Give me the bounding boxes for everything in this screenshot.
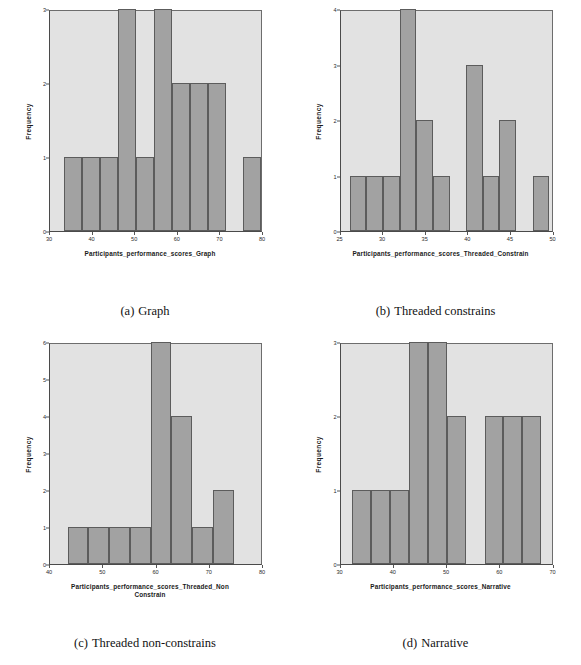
y-axis-ticks: 0123 — [324, 343, 340, 565]
panel-caption-label: (d) — [403, 636, 418, 650]
x-tick-label: 70 — [549, 569, 555, 575]
x-tick-mark — [262, 232, 263, 235]
histogram-bar — [383, 176, 400, 232]
x-tick-label: 80 — [259, 236, 265, 242]
x-axis-ticks: 4050607080 — [49, 565, 262, 579]
histogram-bar — [400, 9, 417, 231]
x-tick-mark — [446, 565, 447, 568]
figure-panel-grid: Frequency0123304050607080Participants_pe… — [0, 0, 581, 665]
y-axis-title-text: Frequency — [315, 103, 322, 139]
histogram-bar — [130, 527, 151, 564]
panel-caption: (c)Threaded non-constrains — [0, 636, 290, 651]
x-tick-mark — [102, 565, 103, 568]
histogram-panel-a: Frequency0123304050607080Participants_pe… — [0, 0, 290, 333]
panel-caption-text: Threaded constrains — [394, 304, 495, 318]
x-axis-title: Participants_performance_scores_Threaded… — [31, 583, 269, 599]
x-tick-label: 50 — [443, 569, 449, 575]
plot-area: Frequency01234564050607080Participants_p… — [19, 343, 271, 605]
axes-box — [49, 343, 262, 565]
x-tick-label: 40 — [464, 236, 470, 242]
x-axis-title-line1: Participants_performance_scores_Narrativ… — [322, 583, 560, 591]
panel-caption-label: (a) — [120, 304, 134, 318]
x-tick-label: 35 — [422, 236, 428, 242]
histogram-bar — [68, 527, 89, 564]
histogram-panel-d: Frequency01233040506070Participants_perf… — [290, 333, 581, 665]
x-tick-mark — [393, 565, 394, 568]
histogram-bar — [447, 416, 466, 564]
panel-caption: (a)Graph — [0, 304, 290, 319]
histogram-bar — [208, 83, 226, 231]
panel-caption: (b)Threaded constrains — [290, 304, 581, 319]
x-tick-mark — [134, 232, 135, 235]
x-axis-title-line2: Constrain — [31, 591, 269, 599]
x-tick-mark — [49, 232, 50, 235]
x-tick-mark — [219, 232, 220, 235]
histogram-bar — [533, 176, 550, 232]
x-axis-title: Participants_performance_scores_Narrativ… — [322, 583, 560, 591]
x-tick-mark — [340, 232, 341, 235]
x-tick-label: 50 — [549, 236, 555, 242]
histogram-bar — [522, 416, 541, 564]
x-tick-label: 25 — [336, 236, 342, 242]
x-tick-mark — [382, 232, 383, 235]
panel-caption-text: Threaded non-constrains — [92, 636, 216, 650]
x-tick-label: 50 — [99, 569, 105, 575]
x-tick-label: 40 — [88, 236, 94, 242]
bar-series — [50, 11, 261, 231]
axes-box — [49, 10, 262, 232]
x-tick-label: 70 — [216, 236, 222, 242]
histogram-bar — [118, 9, 136, 231]
histogram-bar — [213, 490, 234, 564]
panel-caption-text: Narrative — [421, 636, 468, 650]
histogram-bar — [88, 527, 109, 564]
x-tick-mark — [92, 232, 93, 235]
x-tick-mark — [553, 565, 554, 568]
x-tick-label: 40 — [390, 569, 396, 575]
panel-caption: (d)Narrative — [290, 636, 581, 651]
histogram-bar — [100, 157, 118, 231]
x-tick-mark — [467, 232, 468, 235]
plot-area: Frequency01234253035404550Participants_p… — [310, 10, 562, 272]
x-tick-label: 50 — [131, 236, 137, 242]
y-axis-title-text: Frequency — [25, 436, 32, 472]
histogram-bar — [483, 176, 500, 232]
x-axis-title: Participants_performance_scores_Graph — [31, 250, 269, 258]
x-axis-title-line1: Participants_performance_scores_Graph — [31, 250, 269, 258]
panel-caption-text: Graph — [138, 304, 169, 318]
x-tick-mark — [510, 232, 511, 235]
bar-series — [341, 11, 552, 231]
x-tick-mark — [553, 232, 554, 235]
x-tick-mark — [262, 565, 263, 568]
histogram-bar — [136, 157, 154, 231]
histogram-bar — [371, 490, 390, 564]
axes-box — [340, 10, 553, 232]
axes-box — [340, 343, 553, 565]
histogram-bar — [416, 120, 433, 231]
histogram-bar — [64, 157, 82, 231]
x-tick-label: 70 — [206, 569, 212, 575]
histogram-bar — [409, 342, 428, 564]
histogram-bar — [390, 490, 409, 564]
x-tick-label: 45 — [507, 236, 513, 242]
x-tick-label: 30 — [379, 236, 385, 242]
x-tick-mark — [425, 232, 426, 235]
histogram-bar — [350, 176, 367, 232]
histogram-bar — [154, 9, 172, 231]
x-tick-mark — [156, 565, 157, 568]
histogram-bar — [172, 83, 190, 231]
x-tick-mark — [177, 232, 178, 235]
y-axis-ticks: 0123456 — [33, 343, 49, 565]
histogram-bar — [190, 83, 208, 231]
x-tick-label: 30 — [336, 569, 342, 575]
histogram-bar — [171, 416, 192, 564]
x-tick-label: 80 — [259, 569, 265, 575]
y-axis-title-text: Frequency — [315, 436, 322, 472]
plot-area: Frequency0123304050607080Participants_pe… — [19, 10, 271, 272]
y-axis-ticks: 01234 — [324, 10, 340, 232]
x-axis-ticks: 253035404550 — [340, 232, 553, 246]
histogram-bar — [352, 490, 371, 564]
x-tick-label: 60 — [174, 236, 180, 242]
x-axis-ticks: 3040506070 — [340, 565, 553, 579]
histogram-bar — [366, 176, 383, 232]
panel-caption-label: (b) — [376, 304, 391, 318]
